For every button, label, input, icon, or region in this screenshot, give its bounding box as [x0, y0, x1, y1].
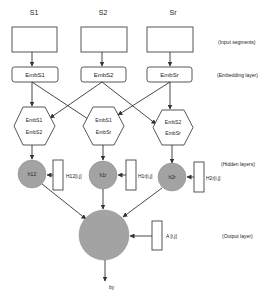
- embedding-box-s2: EmbS2: [81, 67, 126, 82]
- embedding-label: EmbS1: [25, 72, 45, 78]
- weight-box-h12: [53, 160, 63, 190]
- combination-top-label: EmbS2: [165, 119, 182, 125]
- input-title-sr: Sr: [170, 9, 178, 16]
- input-segment-box-s2: [81, 27, 127, 52]
- edge-h2r-to-output: [123, 188, 162, 217]
- combination-top-label: EmbS1: [95, 117, 112, 123]
- combination-hexagon-1r: EmbS1 EmbSr: [83, 107, 124, 145]
- weight-label-h12: H12[i,j]: [66, 173, 82, 179]
- hidden-node-label: h1r: [99, 172, 107, 178]
- embedding-box-sr: EmbSr: [147, 67, 192, 82]
- combination-bottom-label: EmbSr: [165, 130, 181, 136]
- weight-box-output: [152, 221, 162, 250]
- output-label-by: by: [109, 284, 115, 290]
- input-segment-box-s1: [12, 27, 57, 52]
- combination-bottom-label: EmbSr: [96, 129, 112, 135]
- layer-label-embedding: (Embedding layer): [217, 72, 258, 78]
- input-title-s2: S2: [99, 9, 108, 16]
- weight-box-h1r: [126, 160, 136, 190]
- hidden-node-h12: h12: [18, 160, 46, 188]
- layer-label-hidden: (Hidden layers): [221, 161, 255, 167]
- neural-network-diagram: S1 S2 Sr EmbS1 EmbS2 EmbSr EmbS1 EmbS2 E…: [0, 0, 277, 294]
- input-segment-box-sr: [147, 27, 193, 52]
- weight-box-h2r: [194, 162, 204, 192]
- weight-label-h2r: H2r[i,j]: [206, 175, 221, 181]
- combination-top-label: EmbS1: [26, 117, 43, 123]
- embedding-label: EmbSr: [160, 72, 178, 78]
- edge-h12-to-output: [42, 184, 86, 219]
- weight-label-output: A [i,j]: [166, 233, 177, 239]
- hidden-node-label: h2r: [168, 174, 176, 180]
- hidden-node-h1r: h1r: [89, 161, 117, 189]
- layer-label-input: (Input segments): [218, 39, 256, 45]
- output-node: [79, 210, 129, 260]
- hidden-node-label: h12: [28, 171, 37, 177]
- weight-label-h1r: H1r[i,j]: [138, 173, 153, 179]
- input-title-s1: S1: [30, 9, 39, 16]
- combination-bottom-label: EmbS2: [26, 129, 43, 135]
- combination-hexagon-2r: EmbS2 EmbSr: [153, 110, 193, 145]
- embedding-label: EmbS2: [94, 72, 114, 78]
- combination-hexagon-12: EmbS1 EmbS2: [14, 107, 55, 145]
- layer-label-output: (Output layer): [222, 233, 253, 239]
- embedding-box-s1: EmbS1: [12, 67, 58, 82]
- hidden-node-h2r: h2r: [158, 163, 186, 191]
